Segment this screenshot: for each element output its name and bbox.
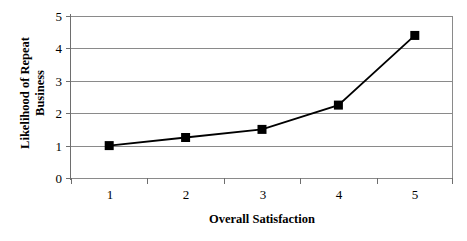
- x-tick-label-4: 4: [324, 188, 354, 201]
- y-tick-mark-2: [66, 113, 71, 114]
- gridline-3: [71, 81, 453, 82]
- y-axis-title: Likelihood of Repeat Business: [0, 0, 66, 186]
- plot-area: [71, 16, 453, 178]
- y-tick-label-1: 1: [38, 140, 62, 153]
- gridline-4: [71, 48, 453, 49]
- x-tick-mark-5: [452, 178, 453, 184]
- y-tick-label-3: 3: [38, 75, 62, 88]
- x-tick-mark-3: [300, 178, 301, 184]
- y-tick-label-2: 2: [38, 107, 62, 120]
- y-tick-label-5: 5: [38, 10, 62, 23]
- y-axis-title-line-1: Likelihood of Repeat: [18, 37, 33, 149]
- y-tick-mark-3: [66, 81, 71, 82]
- x-tick-mark-4: [377, 178, 378, 184]
- gridline-5: [71, 16, 453, 17]
- y-tick-mark-4: [66, 48, 71, 49]
- gridline-0: [71, 178, 453, 179]
- x-tick-label-2: 2: [171, 188, 201, 201]
- x-tick-mark-1: [147, 178, 148, 184]
- y-tick-label-0: 0: [38, 172, 62, 185]
- x-tick-label-5: 5: [400, 188, 430, 201]
- x-tick-mark-2: [224, 178, 225, 184]
- x-tick-mark-0: [71, 178, 72, 184]
- gridline-1: [71, 146, 453, 147]
- x-tick-label-1: 1: [95, 188, 125, 201]
- y-tick-mark-5: [66, 16, 71, 17]
- x-tick-label-3: 3: [248, 188, 278, 201]
- line-chart: Likelihood of Repeat Business 5 4 3 2 1 …: [0, 0, 467, 241]
- y-tick-label-4: 4: [38, 42, 62, 55]
- plot-right-border: [452, 16, 453, 179]
- x-axis-title: Overall Satisfaction: [71, 212, 453, 227]
- gridline-2: [71, 113, 453, 114]
- y-tick-mark-1: [66, 146, 71, 147]
